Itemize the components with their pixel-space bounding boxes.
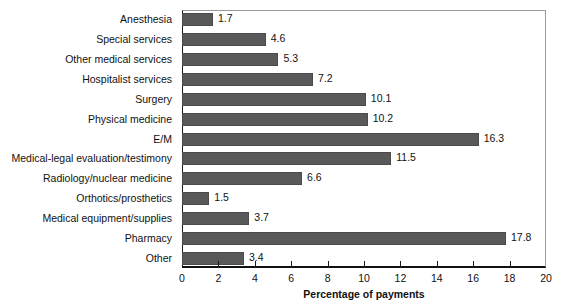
bar-value-label: 10.1 (371, 92, 391, 105)
bar (182, 172, 302, 185)
bar-value-label: 3.7 (254, 211, 269, 224)
category-label: Other (146, 252, 172, 265)
bar (182, 152, 391, 165)
bar-value-label: 6.6 (307, 171, 322, 184)
bar-value-label: 7.2 (318, 72, 333, 85)
x-axis-tick-label: 8 (325, 272, 331, 284)
bar-value-label: 4.6 (271, 32, 286, 45)
category-label: Pharmacy (125, 232, 172, 245)
x-axis-tick-label: 10 (358, 272, 370, 284)
x-axis-tick (437, 261, 438, 268)
bar-value-label: 5.3 (283, 52, 298, 65)
bar-value-label: 3.4 (249, 251, 264, 264)
x-axis-tick (291, 261, 292, 268)
bar-value-label: 1.5 (214, 191, 229, 204)
category-label: E/M (153, 133, 172, 146)
category-label: Radiology/nuclear medicine (43, 172, 172, 185)
x-axis-tick-label: 6 (288, 272, 294, 284)
bar-value-label: 1.7 (218, 12, 233, 25)
category-label: Physical medicine (88, 113, 172, 126)
bar (182, 192, 209, 205)
bar (182, 133, 479, 146)
category-label: Other medical services (65, 53, 172, 66)
plot-area: 1.74.65.37.210.110.216.311.56.61.53.717.… (182, 10, 546, 268)
bar (182, 33, 266, 46)
bar (182, 232, 506, 245)
category-label: Surgery (135, 93, 172, 106)
category-label: Medical equipment/supplies (42, 212, 172, 225)
x-axis-tick-label: 4 (252, 272, 258, 284)
bar-value-label: 17.8 (511, 231, 531, 244)
bar (182, 73, 313, 86)
bar-value-label: 11.5 (396, 151, 416, 164)
category-label: Anesthesia (120, 13, 172, 26)
x-axis-title: Percentage of payments (182, 288, 546, 300)
x-axis-tick (328, 261, 329, 268)
bar (182, 113, 368, 126)
x-axis-tick-label: 2 (215, 272, 221, 284)
x-axis-tick-label: 0 (179, 272, 185, 284)
bar (182, 13, 213, 26)
category-axis-labels: AnesthesiaSpecial servicesOther medical … (0, 10, 177, 268)
category-label: Medical-legal evaluation/testimony (12, 152, 173, 165)
category-label: Orthotics/prosthetics (76, 192, 172, 205)
x-axis-tick (473, 261, 474, 268)
bar (182, 212, 249, 225)
x-axis-tick (218, 261, 219, 268)
x-axis-tick-label: 12 (395, 272, 407, 284)
x-axis-tick-label: 16 (467, 272, 479, 284)
bar-value-label: 16.3 (484, 132, 504, 145)
bar (182, 53, 278, 66)
category-label: Hospitalist services (82, 73, 172, 86)
x-axis-tick-label: 14 (431, 272, 443, 284)
bar (182, 93, 366, 106)
x-axis-tick (510, 261, 511, 268)
bar-value-label: 10.2 (373, 112, 393, 125)
bar-chart: AnesthesiaSpecial servicesOther medical … (0, 0, 562, 308)
x-axis-tick (255, 261, 256, 268)
x-axis-tick (364, 261, 365, 268)
category-label: Special services (96, 33, 172, 46)
x-axis-tick-label: 18 (504, 272, 516, 284)
x-axis-tick-label: 20 (540, 272, 552, 284)
x-axis-tick (400, 261, 401, 268)
bar (182, 252, 244, 265)
